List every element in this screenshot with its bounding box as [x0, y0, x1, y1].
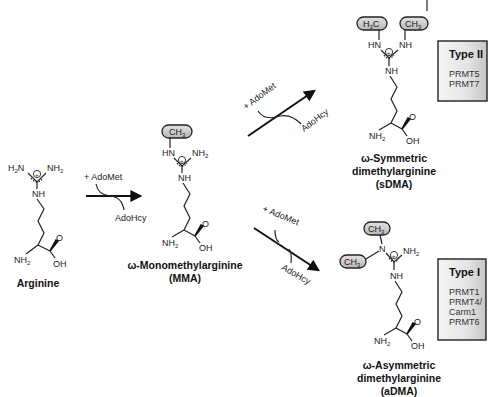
- adomet-label: + AdoMet: [84, 172, 123, 182]
- o-label: O: [409, 112, 416, 122]
- nh-label: NH: [390, 271, 403, 281]
- mma-structure: CH3 HN NH2 + NH NH2 O OH ω-Monomethylarg…: [127, 125, 242, 284]
- type2-enzyme-box: Type II PRMT5 PRMT7: [438, 41, 487, 101]
- box-title: Type I: [449, 266, 480, 278]
- adma-structure: CH3 CH3 N NH2 + NH NH2 O OH ω-Asymmetric…: [340, 222, 441, 397]
- cofactor-curve: [258, 111, 301, 124]
- sdma-abbrev: (sDMA): [376, 178, 413, 190]
- box-title: Type II: [449, 48, 483, 60]
- nh-label: NH: [385, 66, 398, 76]
- enzyme-item: PRMT6: [449, 317, 480, 327]
- o-label: O: [414, 317, 421, 327]
- positive-charge: +: [387, 50, 391, 56]
- nh2-label: NH2: [47, 163, 64, 174]
- reaction-step2-symmetric: + AdoMet AdoHcy: [241, 80, 331, 136]
- nh-label: NH: [399, 40, 412, 50]
- oh-label: OH: [199, 243, 213, 253]
- enzyme-item: PRMT7: [449, 79, 480, 89]
- cofactor-curve-in: [275, 230, 279, 242]
- reaction-step1: + AdoMet AdoHcy: [84, 172, 147, 223]
- sdma-name-line2: dimethylarginine: [352, 165, 436, 177]
- adohcy-label: AdoHcy: [280, 262, 313, 287]
- oh-label: OH: [411, 341, 425, 351]
- adma-name-line2: dimethylarginine: [357, 372, 441, 384]
- mma-name: ω-Monomethylarginine: [127, 259, 242, 271]
- adma-name-line1: ω-Asymmetric: [363, 359, 436, 371]
- oh-label: OH: [406, 136, 420, 146]
- h2n-label: H2N: [8, 163, 24, 174]
- o-label: O: [56, 233, 63, 243]
- sdma-structure: H3C CH3 HN NH + NH NH2 O OH ω-Symmetric …: [352, 17, 436, 190]
- enzyme-item: PRMT1: [449, 287, 480, 297]
- oh-label: OH: [53, 259, 67, 269]
- positive-charge: +: [35, 172, 39, 178]
- sdma-name-line1: ω-Symmetric: [361, 152, 427, 164]
- adohcy-label: AdoHcy: [115, 213, 147, 223]
- n-label: N: [379, 244, 386, 254]
- nh2-label: NH2: [192, 148, 209, 159]
- arginine-structure: H2N NH2 + NH NH2 O OH Arginine: [8, 163, 67, 289]
- nh2-alpha-label: NH2: [14, 255, 31, 266]
- nh2-label: NH2: [403, 246, 420, 257]
- side-chain: [37, 199, 44, 245]
- adma-abbrev: (aDMA): [381, 385, 418, 397]
- enzyme-item: Carm1: [449, 307, 476, 317]
- nh-label: NH: [32, 189, 45, 199]
- arginine-name: Arginine: [17, 277, 60, 289]
- positive-charge: +: [180, 158, 184, 164]
- nh2-alpha-label: NH2: [369, 131, 386, 142]
- hn-label: HN: [162, 148, 175, 158]
- hn-label: HN: [368, 40, 381, 50]
- type1-enzyme-box: Type I PRMT1 PRMT4/ Carm1 PRMT6: [438, 259, 486, 340]
- o-label: O: [202, 219, 209, 229]
- adomet-label: + AdoMet: [241, 80, 278, 111]
- reaction-step2-asymmetric: + AdoMet AdoHcy: [254, 204, 318, 287]
- nh-label: NH: [178, 173, 191, 183]
- nh2-alpha-label: NH2: [374, 336, 391, 347]
- adohcy-label: AdoHcy: [299, 106, 331, 133]
- positive-charge: +: [392, 253, 396, 259]
- reaction-scheme: H2N NH2 + NH NH2 O OH Arginine + AdoMet …: [0, 0, 497, 397]
- adomet-label: + AdoMet: [261, 204, 301, 228]
- nh2-alpha-label: NH2: [162, 238, 179, 249]
- alpha-amine-bond: [26, 245, 38, 254]
- enzyme-item: PRMT4/: [449, 297, 483, 307]
- enzyme-item: PRMT5: [449, 69, 480, 79]
- mma-abbrev: (MMA): [169, 272, 201, 284]
